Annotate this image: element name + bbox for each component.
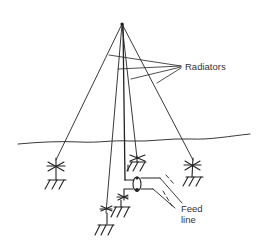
radiators-label: Radiators [185,61,226,72]
feed-line-label-line2: line [181,214,203,225]
radiator-wire-right [122,24,193,160]
ground-insulator-left [45,158,66,189]
ground-insulator-lower [95,194,130,235]
ground-insulator-center [127,155,146,171]
ground-insulator-right [183,158,203,186]
ground-surface-line [18,134,250,144]
antenna-diagram [0,0,264,249]
coaxial-coupler [124,177,160,201]
feed-line-label-line1: Feed [181,203,203,214]
pointer-line [109,55,181,66]
feed-line-label: Feed line [181,203,203,225]
feed-line [153,175,182,208]
pointer-line [118,66,181,69]
